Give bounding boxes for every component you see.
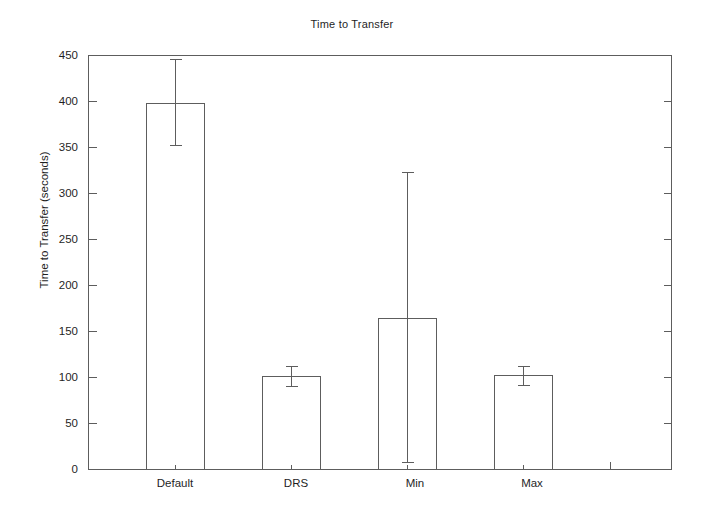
y-axis-ticks [89, 102, 97, 424]
y-axis-ticks-right [664, 102, 672, 424]
bar-default [147, 104, 205, 470]
bar-max [495, 376, 553, 470]
chart-figure: Time to Transfer Time to Transfer (secon… [0, 0, 704, 509]
bar-drs [263, 377, 321, 470]
chart-plot-area [0, 0, 704, 509]
bar-series [147, 104, 553, 470]
error-bars [170, 60, 530, 463]
